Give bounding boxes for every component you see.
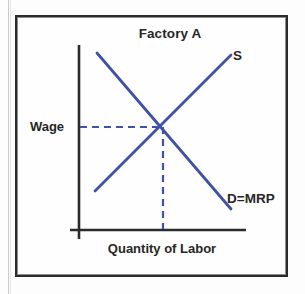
chart-title: Factory A xyxy=(100,26,240,41)
supply-curve-label: S xyxy=(233,48,242,63)
x-axis-label: Quantity of Labor xyxy=(72,241,252,256)
y-axis-label: Wage xyxy=(18,119,76,134)
screenshot-page: Factory A Wage Quantity of Labor S D=MRP xyxy=(0,0,305,294)
demand-curve-label: D=MRP xyxy=(227,191,275,206)
